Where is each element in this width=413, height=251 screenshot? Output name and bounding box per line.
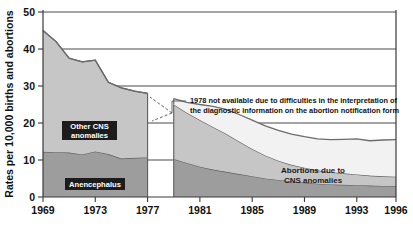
- chart-container: 01020304050 1969197319771981198519891993…: [0, 0, 413, 251]
- annotation-line-1: 1978 not available due to difficulties i…: [190, 96, 398, 105]
- y-tick-label-40: 40: [23, 43, 35, 55]
- x-tick-label-1993: 1993: [345, 204, 369, 216]
- anencephalus-label-text: Anencephalus: [69, 180, 121, 189]
- x-tick-label-1985: 1985: [241, 204, 265, 216]
- x-tick-label-1973: 1973: [84, 204, 108, 216]
- x-tick-label-1981: 1981: [188, 204, 212, 216]
- x-tick-label-1969: 1969: [31, 204, 55, 216]
- abortions-label-line2: CNS anomalies: [284, 176, 343, 185]
- y-axis-title: Rates per 10,000 births and abortions: [3, 10, 15, 197]
- y-tick-label-30: 30: [23, 80, 35, 92]
- y-tick-label-0: 0: [29, 191, 35, 203]
- y-tick-label-10: 10: [23, 154, 35, 166]
- y-tick-label-20: 20: [23, 117, 35, 129]
- series-label-abortions: Abortions due to CNS anomalies: [281, 166, 345, 185]
- series-label-other-cns: Other CNS anomalies: [62, 121, 117, 140]
- x-tick-label-1977: 1977: [136, 204, 160, 216]
- abortions-label-line1: Abortions due to: [281, 166, 345, 175]
- x-tick-label-1996: 1996: [384, 204, 408, 216]
- cns-anomalies-area-chart: 01020304050 1969197319771981198519891993…: [0, 0, 413, 251]
- y-tick-label-50: 50: [23, 6, 35, 18]
- annotation-line-2: the diagnostic information on the aborti…: [190, 106, 399, 115]
- series-label-anencephalus: Anencephalus: [65, 178, 125, 190]
- x-tick-label-1989: 1989: [293, 204, 317, 216]
- other-cns-label-line2: anomalies: [71, 131, 108, 140]
